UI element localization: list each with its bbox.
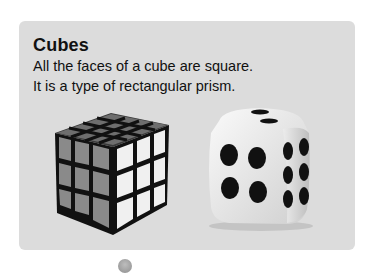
info-card: Cubes All the faces of a cube are square… xyxy=(19,21,355,250)
card-description: All the faces of a cube are square. It i… xyxy=(33,56,253,96)
card-title: Cubes xyxy=(33,35,89,56)
rubiks-cube-image xyxy=(47,103,177,238)
description-line: All the faces of a cube are square. xyxy=(33,56,253,76)
partial-shape-icon xyxy=(118,259,132,273)
die-image xyxy=(199,103,319,233)
description-line: It is a type of rectangular prism. xyxy=(33,76,253,96)
